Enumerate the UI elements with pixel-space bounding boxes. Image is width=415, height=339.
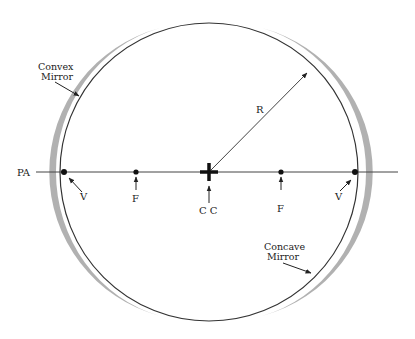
focus-right-dot bbox=[278, 169, 283, 174]
vertex-right-dot bbox=[352, 169, 358, 175]
center-of-curvature-label: C C bbox=[199, 205, 218, 216]
convex-mirror-label-2: Mirror bbox=[41, 71, 74, 82]
focus-left-dot bbox=[133, 169, 138, 174]
radius-arrow bbox=[211, 73, 307, 170]
vertex-right-label: V bbox=[334, 191, 343, 202]
concave-label-arrow bbox=[283, 263, 311, 273]
mirror-diagram: PA Convex Mirror Concave Mirror R V V F … bbox=[0, 0, 415, 339]
principal-axis-label: PA bbox=[17, 167, 31, 178]
vertex-right-arrow bbox=[340, 180, 351, 191]
vertex-left-arrow bbox=[69, 178, 82, 192]
vertex-left-dot bbox=[61, 169, 67, 175]
focus-right-label: F bbox=[277, 203, 284, 214]
radius-label: R bbox=[256, 104, 264, 115]
vertex-left-label: V bbox=[79, 191, 88, 202]
concave-mirror-label-2: Mirror bbox=[267, 251, 300, 262]
focus-left-label: F bbox=[132, 193, 139, 204]
